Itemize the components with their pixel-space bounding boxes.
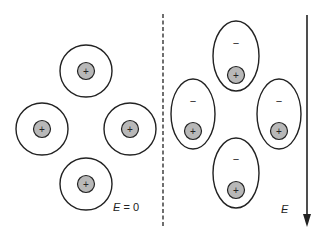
plus-sign: + xyxy=(83,66,89,77)
minus-sign: − xyxy=(233,37,239,49)
atom-unpolarized-bottom: + xyxy=(60,158,112,210)
plus-sign: + xyxy=(233,70,239,81)
atom-polarized-top: − + xyxy=(213,21,259,91)
plus-sign: + xyxy=(39,124,45,135)
atom-unpolarized-top: + xyxy=(60,45,112,97)
plus-sign: + xyxy=(190,126,196,137)
field-zero-label: E = 0 xyxy=(113,201,139,213)
plus-sign: + xyxy=(83,179,89,190)
atom-polarized-right: − + xyxy=(257,79,301,149)
plus-sign: + xyxy=(127,124,133,135)
plus-sign: + xyxy=(276,126,282,137)
plus-sign: + xyxy=(233,185,239,196)
minus-sign: − xyxy=(276,95,282,107)
atom-polarized-bottom: − + xyxy=(213,138,259,208)
polarization-diagram: + + + + E = 0 − + − + − + − + xyxy=(0,0,320,239)
field-label: E xyxy=(281,203,289,215)
minus-sign: − xyxy=(190,95,196,107)
atom-polarized-left: − + xyxy=(171,79,215,149)
atom-unpolarized-right: + xyxy=(104,103,156,155)
atom-unpolarized-left: + xyxy=(16,103,68,155)
arrow-down-icon xyxy=(303,214,311,227)
minus-sign: − xyxy=(233,153,239,165)
